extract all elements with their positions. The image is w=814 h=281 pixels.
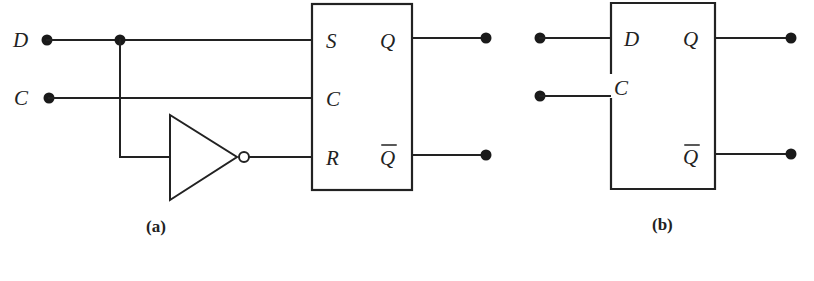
pin-label-q-bar: Q	[683, 145, 698, 169]
caption-a: (a)	[146, 217, 166, 236]
input-label-d: D	[12, 28, 28, 52]
subfigure-b: D C Q Q (b)	[535, 3, 797, 234]
output-terminal-q	[481, 33, 492, 44]
pin-label-q-bar: Q	[380, 146, 395, 170]
pin-label-c: C	[326, 87, 341, 111]
output-terminal-q	[786, 33, 797, 44]
input-label-c: C	[14, 86, 29, 110]
inverter-gate-icon	[170, 115, 237, 200]
pin-label-q: Q	[683, 27, 698, 51]
pin-label-q: Q	[380, 29, 395, 53]
output-terminal-q-bar	[786, 149, 797, 160]
subfigure-a: D C S C R Q Q (a)	[12, 4, 492, 236]
d-latch-diagram: D C S C R Q Q (a)	[0, 0, 814, 281]
output-terminal-q-bar	[481, 150, 492, 161]
pin-label-r: R	[325, 146, 339, 170]
pin-label-d: D	[623, 27, 639, 51]
caption-b: (b)	[652, 215, 673, 234]
inverter-bubble-icon	[239, 152, 249, 162]
pin-label-s: S	[326, 29, 337, 53]
pin-label-c: C	[614, 76, 629, 100]
